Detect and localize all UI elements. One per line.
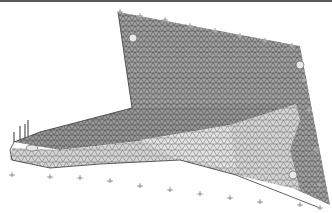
constraint-marker-icon <box>167 187 173 192</box>
fem-mesh-figure <box>0 0 332 213</box>
hole-top-left <box>129 34 137 42</box>
constraint-marker-icon <box>137 183 143 188</box>
constraint-marker-icon <box>197 191 203 196</box>
constraint-marker-icon <box>9 172 15 177</box>
constraint-marker-icon <box>297 202 303 207</box>
constraint-marker-icon <box>257 199 263 204</box>
hole-bottom-right <box>289 171 297 179</box>
hole-tip <box>26 145 38 151</box>
constraint-marker-icon <box>107 178 113 183</box>
constraint-marker-icon <box>47 174 53 179</box>
constraint-marker-icon <box>227 195 233 200</box>
hole-top-right <box>296 61 304 69</box>
constraint-marker-icon <box>317 205 323 210</box>
constraint-marker-icon <box>77 175 83 180</box>
